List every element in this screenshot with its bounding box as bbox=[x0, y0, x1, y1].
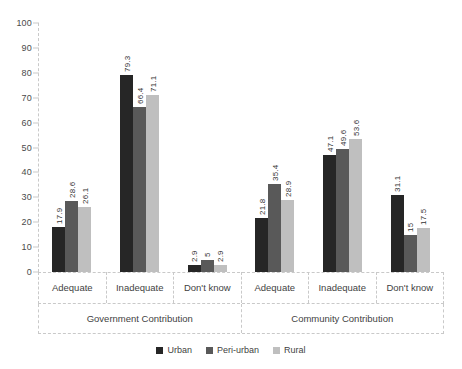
bar-rural[interactable]: 28.9 bbox=[281, 200, 294, 272]
bar-peri-urban[interactable]: 66.4 bbox=[133, 107, 146, 272]
bar-rural[interactable]: 71.1 bbox=[146, 95, 159, 272]
bar-peri-urban[interactable]: 49.6 bbox=[336, 149, 349, 273]
bar-value-label: 35.4 bbox=[270, 164, 279, 180]
category-label: Don't know bbox=[377, 272, 444, 303]
y-axis-tick-label: 10 bbox=[0, 242, 32, 252]
bar-urban[interactable]: 79.3 bbox=[120, 75, 133, 272]
legend-item-urban[interactable]: Urban bbox=[156, 345, 192, 355]
bar-rural[interactable]: 26.1 bbox=[78, 207, 91, 272]
bar-value-label: 31.1 bbox=[393, 175, 402, 191]
bar-group: 79.366.471.1 bbox=[106, 23, 174, 272]
bar-group: 47.149.653.6 bbox=[309, 23, 377, 272]
bar-value-label: 5 bbox=[203, 252, 212, 257]
bar-value-label: 66.4 bbox=[135, 87, 144, 103]
bar-value-label: 71.1 bbox=[148, 76, 157, 92]
bar-value-label: 28.6 bbox=[67, 181, 76, 197]
bar-value-label: 53.6 bbox=[351, 119, 360, 135]
bar-value-label: 26.1 bbox=[80, 188, 89, 204]
bar-urban[interactable]: 47.1 bbox=[323, 155, 336, 272]
bar-peri-urban[interactable]: 5 bbox=[201, 260, 214, 272]
bar-value-label: 79.3 bbox=[122, 55, 131, 71]
bar-value-label: 49.6 bbox=[338, 129, 347, 145]
bar-group: 17.928.626.1 bbox=[38, 23, 106, 272]
y-axis-tick-label: 20 bbox=[0, 217, 32, 227]
bar-value-label: 17.5 bbox=[419, 209, 428, 225]
y-axis-tick-label: 100 bbox=[0, 18, 32, 28]
bar-value-label: 15 bbox=[406, 222, 415, 231]
y-axis-tick-label: 90 bbox=[0, 43, 32, 53]
supergroup-label: Government Contribution bbox=[39, 304, 242, 333]
bar-urban[interactable]: 2.9 bbox=[188, 265, 201, 272]
supergroup-label-band: Government ContributionCommunity Contrib… bbox=[38, 304, 444, 334]
plot-bars: 17.928.626.179.366.471.12.952.921.835.42… bbox=[38, 23, 444, 272]
category-label: Inadequate bbox=[107, 272, 175, 303]
y-axis-tick-label: 50 bbox=[0, 143, 32, 153]
legend-label: Urban bbox=[167, 345, 192, 355]
bar-value-label: 28.9 bbox=[283, 181, 292, 197]
legend-label: Peri-urban bbox=[217, 345, 259, 355]
y-axis-tick-label: 30 bbox=[0, 192, 32, 202]
category-label: Inadequate bbox=[309, 272, 377, 303]
legend-item-rural[interactable]: Rural bbox=[273, 345, 306, 355]
y-axis-tick-label: 40 bbox=[0, 167, 32, 177]
legend-item-peri-urban[interactable]: Peri-urban bbox=[206, 345, 259, 355]
chart-legend: UrbanPeri-urbanRural bbox=[0, 345, 462, 355]
category-label: Adequate bbox=[242, 272, 310, 303]
supergroup-1: 17.928.626.179.366.471.12.952.9 bbox=[38, 23, 241, 272]
bar-urban[interactable]: 31.1 bbox=[391, 195, 404, 272]
supergroup-2: 21.835.428.947.149.653.631.11517.5 bbox=[241, 23, 444, 272]
category-label: Adequate bbox=[39, 272, 107, 303]
legend-swatch-icon bbox=[206, 347, 213, 354]
y-axis-tick-label: 80 bbox=[0, 68, 32, 78]
y-axis-tick-label: 60 bbox=[0, 118, 32, 128]
bar-rural[interactable]: 53.6 bbox=[349, 139, 362, 272]
legend-swatch-icon bbox=[273, 347, 280, 354]
category-label: Don't know bbox=[174, 272, 242, 303]
bar-value-label: 17.9 bbox=[54, 208, 63, 224]
bar-rural[interactable]: 17.5 bbox=[417, 228, 430, 272]
bar-value-label: 2.9 bbox=[190, 250, 199, 262]
legend-label: Rural bbox=[284, 345, 306, 355]
bar-peri-urban[interactable]: 35.4 bbox=[268, 184, 281, 272]
bar-chart: 0102030405060708090100 17.928.626.179.36… bbox=[0, 0, 462, 369]
category-label-band: AdequateInadequateDon't knowAdequateInad… bbox=[38, 272, 444, 304]
bar-peri-urban[interactable]: 15 bbox=[404, 235, 417, 272]
bar-urban[interactable]: 21.8 bbox=[255, 218, 268, 272]
legend-swatch-icon bbox=[156, 347, 163, 354]
bar-peri-urban[interactable]: 28.6 bbox=[65, 201, 78, 272]
supergroup-label: Community Contribution bbox=[242, 304, 444, 333]
bar-urban[interactable]: 17.9 bbox=[52, 227, 65, 272]
bar-group: 21.835.428.9 bbox=[241, 23, 309, 272]
bar-value-label: 2.9 bbox=[216, 250, 225, 262]
bar-value-label: 47.1 bbox=[325, 135, 334, 151]
bar-group: 2.952.9 bbox=[173, 23, 241, 272]
bar-group: 31.11517.5 bbox=[376, 23, 444, 272]
bar-value-label: 21.8 bbox=[257, 198, 266, 214]
y-axis-tick-label: 70 bbox=[0, 93, 32, 103]
bar-rural[interactable]: 2.9 bbox=[214, 265, 227, 272]
y-axis-tick-label: 0 bbox=[0, 267, 32, 277]
